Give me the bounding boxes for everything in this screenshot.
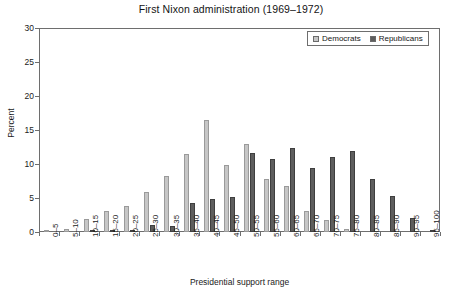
bar-dem-12 [284,186,289,232]
x-axis-tick-label: 15–20 [112,215,120,237]
x-axis-tick-label: 35–40 [193,215,201,237]
x-axis-tick-label: 65–70 [313,215,321,237]
chart-legend: DemocratsRepublicans [307,31,429,46]
bar-dem-3 [104,211,109,232]
y-axis-tick-label: 30 [4,24,34,33]
x-axis-tick-label: 90–95 [413,215,421,237]
bar-dem-7 [184,154,189,232]
legend-label: Republicans [379,35,423,43]
x-axis-tick-label: 50–55 [253,215,261,237]
republicans-swatch [370,36,376,42]
x-axis-tick-label: 85–90 [393,215,401,237]
x-axis-tick-label: 40–45 [213,215,221,237]
x-axis-tick-label: 60–65 [293,215,301,237]
x-axis-tick-label: 55–60 [273,215,281,237]
bar-dem-11 [264,179,269,232]
x-axis-tick-label: 20–25 [132,215,140,237]
legend-entry-republicans: Republicans [370,35,423,43]
legend-label: Democrats [322,35,361,43]
x-axis-tick-label: 45–50 [233,215,241,237]
chart-title: First Nixon administration (1969–1972) [0,3,462,15]
y-axis-tick-labels: 051015202530 [0,28,34,232]
y-axis-tick-label: 0 [4,228,34,237]
x-axis-tick-label: 25–30 [152,215,160,237]
bar-dem-4 [124,206,129,232]
x-axis-tick-label: 30–35 [173,215,181,237]
bar-dem-9 [224,165,229,232]
bar-dem-5 [144,192,149,232]
y-axis-tick-label: 15 [4,126,34,135]
bar-dem-2 [84,219,89,232]
x-axis-tick-label: 80–85 [373,215,381,237]
y-axis-tick-label: 25 [4,58,34,67]
plot-area [39,28,440,232]
bar-dem-6 [164,176,169,232]
x-axis-tick-labels: 0–55–1010–1515–2020–2525–3030–3535–4040–… [39,236,440,278]
x-axis-tick-label: 95–100 [433,210,441,237]
bar-dem-8 [204,120,209,232]
bar-dem-14 [324,220,329,232]
bar-dem-10 [244,144,249,232]
legend-entry-democrats: Democrats [313,35,361,43]
y-axis-tick-label: 20 [4,92,34,101]
x-axis-tick-label: 0–5 [52,224,60,237]
y-axis-tick-label: 10 [4,160,34,169]
bar-chart: First Nixon administration (1969–1972) P… [0,0,462,290]
x-axis-tick-label: 70–75 [333,215,341,237]
x-axis-tick-label: 10–15 [92,215,100,237]
x-axis-tick-label: 5–10 [72,219,80,237]
y-axis-tick-label: 5 [4,194,34,203]
bar-dem-13 [304,211,309,232]
x-axis-tick-label: 75–80 [353,215,361,237]
x-axis-title: Presidential support range [39,277,440,287]
democrats-swatch [313,36,319,42]
